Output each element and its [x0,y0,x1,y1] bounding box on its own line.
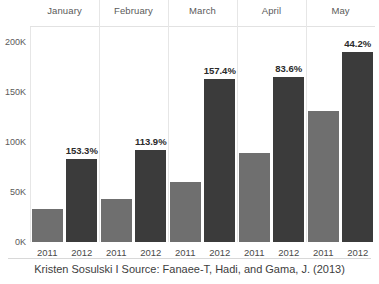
bar-may-2011 [308,111,339,242]
facet-header-strip: JanuaryFebruaryMarchAprilMay [30,0,375,27]
facet-title-february: February [99,5,168,16]
bar-april-2011 [239,153,270,242]
bar-annotation-january: 153.3% [66,145,98,156]
bar-february-2011 [101,199,132,242]
chart-caption: Kristen Sosulski I Source: Fanaee-T, Had… [0,263,379,275]
bar-january-2011 [32,209,63,242]
y-axis-tick-0: 0K [0,237,26,247]
x-axis-tick-april-2012: 2012 [278,247,299,258]
y-axis-tick-2: 100K [0,137,26,147]
x-axis-tick-january-2011: 2011 [37,247,57,258]
facet-title-april: April [237,5,306,16]
facet-title-may: May [306,5,375,16]
x-axis-tick-february-2011: 2011 [106,247,126,258]
x-axis-tick-may-2012: 2012 [347,247,368,258]
bar-annotation-march: 157.4% [204,65,236,76]
bar-march-2011 [170,182,201,243]
bar-annotation-april: 83.6% [275,63,302,74]
y-axis-tick-4: 200K [0,37,26,47]
x-axis-tick-april-2011: 2011 [244,247,264,258]
x-axis-tick-march-2012: 2012 [209,247,230,258]
bar-annotation-may: 44.2% [344,38,371,49]
plot-area [30,27,375,242]
y-axis-tick-1: 50K [0,187,26,197]
chart-container: JanuaryFebruaryMarchAprilMay Kristen Sos… [0,0,379,284]
caption-divider [8,258,371,259]
bar-february-2012 [135,150,166,242]
bar-annotation-february: 113.9% [135,136,167,147]
x-axis-tick-january-2012: 2012 [71,247,92,258]
bar-april-2012 [273,77,304,242]
x-axis-tick-may-2011: 2011 [313,247,333,258]
bar-january-2012 [66,159,97,243]
facet-title-march: March [168,5,237,16]
bar-may-2012 [342,52,373,242]
x-axis-tick-march-2011: 2011 [175,247,195,258]
bar-march-2012 [204,79,235,242]
facet-title-january: January [30,5,99,16]
x-axis-tick-february-2012: 2012 [140,247,161,258]
y-axis-tick-3: 150K [0,87,26,97]
